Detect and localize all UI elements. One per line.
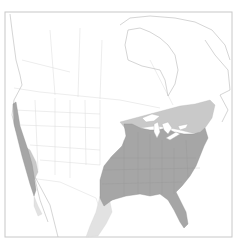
range-tertiary-west [34, 196, 42, 216]
range-layers [13, 100, 215, 237]
range-primary-west-coast [13, 102, 36, 196]
range-primary-east [100, 124, 208, 228]
range-map [0, 0, 241, 243]
